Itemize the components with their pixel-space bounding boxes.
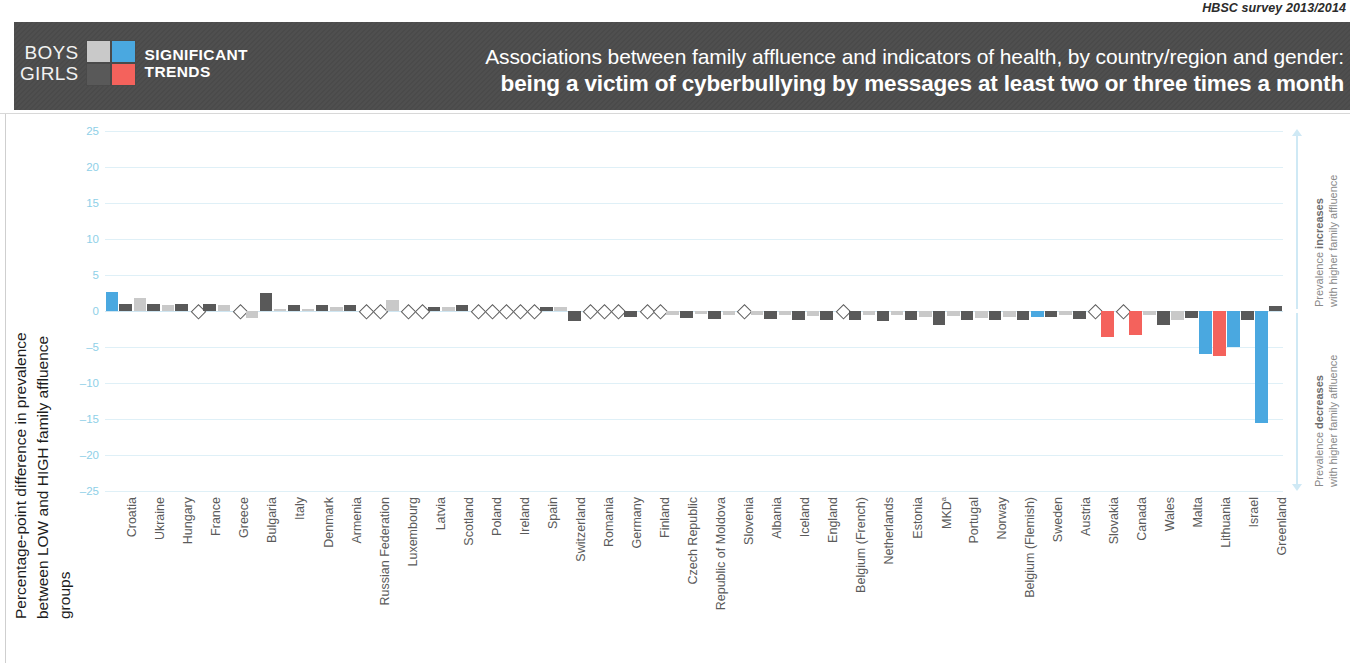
y-tick-label: 25 bbox=[86, 125, 99, 137]
bar-group bbox=[301, 131, 329, 491]
bar-boys-significant bbox=[1199, 311, 1212, 354]
x-label-spain: Spain bbox=[546, 497, 560, 529]
x-label-england: England bbox=[826, 497, 840, 543]
bar-girls bbox=[792, 311, 805, 320]
increase-bold: increases bbox=[1313, 198, 1325, 249]
bar-girls bbox=[119, 304, 132, 311]
x-label-germany: Germany bbox=[630, 497, 644, 548]
bar-boys-significant bbox=[1255, 311, 1268, 423]
zero-marker-boys bbox=[527, 304, 543, 320]
source-note-bar: HBSC survey 2013/2014 bbox=[0, 0, 1350, 22]
bar-group bbox=[554, 131, 582, 491]
bar-group bbox=[1255, 131, 1283, 491]
chart-plot-area: Percentage-point difference in prevalenc… bbox=[0, 113, 1350, 663]
bar-girls bbox=[820, 311, 833, 320]
x-label-malta: Malta bbox=[1191, 497, 1205, 528]
x-label-italy: Italy bbox=[293, 497, 307, 520]
decrease-annotation: Prevalence decreases with higher family … bbox=[1312, 355, 1340, 487]
bar-group bbox=[610, 131, 638, 491]
bar-group bbox=[1115, 131, 1143, 491]
bar-girls-significant bbox=[1101, 311, 1114, 337]
x-label-ukraine: Ukraine bbox=[153, 497, 167, 540]
bar-boys bbox=[218, 305, 231, 311]
y-tick-label: 15 bbox=[86, 197, 99, 209]
x-label-sweden: Sweden bbox=[1051, 497, 1065, 542]
bar-girls bbox=[1241, 311, 1254, 320]
bar-girls bbox=[344, 305, 357, 311]
y-tick-label: –5 bbox=[86, 341, 99, 353]
bar-girls bbox=[1157, 311, 1170, 325]
decrease-prefix: Prevalence bbox=[1313, 429, 1325, 487]
y-tick-label: –25 bbox=[80, 485, 99, 497]
bar-group bbox=[217, 131, 245, 491]
y-tick-label: 5 bbox=[93, 269, 99, 281]
bar-boys bbox=[554, 307, 567, 311]
y-tick-label: 0 bbox=[93, 305, 99, 317]
bar-group bbox=[750, 131, 778, 491]
bar-boys bbox=[779, 311, 792, 315]
bar-boys bbox=[386, 300, 399, 311]
bar-group bbox=[722, 131, 750, 491]
bar-group bbox=[498, 131, 526, 491]
bar-group bbox=[105, 131, 133, 491]
x-label-hungary: Hungary bbox=[181, 497, 195, 544]
increase-prefix: Prevalence bbox=[1313, 249, 1325, 307]
legend: BOYS GIRLS SIGNIFICANT TRENDS bbox=[20, 40, 248, 86]
bar-group bbox=[1003, 131, 1031, 491]
bar-girls bbox=[147, 304, 160, 311]
x-label-russian-federation: Russian Federation bbox=[378, 497, 392, 605]
x-label-latvia: Latvia bbox=[434, 497, 448, 530]
bar-group bbox=[806, 131, 834, 491]
decrease-bold: decreases bbox=[1313, 375, 1325, 429]
x-label-belgium-french-: Belgium (French) bbox=[854, 497, 868, 593]
bar-group bbox=[526, 131, 554, 491]
bar-boys bbox=[246, 311, 259, 318]
x-label-republic-of-moldova: Republic of Moldova bbox=[714, 497, 728, 610]
bar-group bbox=[385, 131, 413, 491]
bar-boys-significant bbox=[1227, 311, 1240, 347]
bar-group bbox=[273, 131, 301, 491]
bar-boys bbox=[919, 311, 932, 317]
x-label-greece: Greece bbox=[237, 497, 251, 538]
bar-group bbox=[946, 131, 974, 491]
swatch-boys-significant bbox=[112, 41, 135, 62]
swatch-girls-nonsignificant bbox=[87, 64, 110, 85]
source-note: HBSC survey 2013/2014 bbox=[1202, 1, 1346, 15]
bar-group bbox=[133, 131, 161, 491]
bar-girls bbox=[568, 311, 581, 321]
bar-boys bbox=[442, 307, 455, 311]
x-label-croatia: Croatia bbox=[125, 497, 139, 537]
bar-boys bbox=[1003, 311, 1016, 317]
bar-boys bbox=[891, 311, 904, 315]
direction-annotations: Prevalence increases with higher family … bbox=[1292, 131, 1350, 491]
bar-boys bbox=[947, 311, 960, 316]
x-label-austria: Austria bbox=[1079, 497, 1093, 536]
bar-boys bbox=[330, 307, 343, 311]
x-label-canada: Canada bbox=[1135, 497, 1149, 541]
swatch-girls-significant bbox=[112, 64, 135, 85]
increase-arrow-line bbox=[1296, 135, 1298, 309]
bar-boys bbox=[751, 311, 764, 315]
bar-girls bbox=[905, 311, 918, 320]
bar-boys bbox=[723, 311, 736, 315]
increase-line2: with higher family affluence bbox=[1326, 175, 1340, 307]
bar-group bbox=[329, 131, 357, 491]
x-label-greenland: Greenland bbox=[1275, 497, 1289, 555]
bar-boys bbox=[1059, 311, 1072, 315]
bar-boys bbox=[975, 311, 988, 318]
bar-boys bbox=[666, 311, 679, 315]
legend-caption-line2: TRENDS bbox=[145, 63, 248, 80]
chart-title: being a victim of cyberbullying by messa… bbox=[354, 70, 1344, 98]
bar-boys bbox=[1171, 311, 1184, 320]
bar-girls bbox=[933, 311, 946, 325]
bar-girls bbox=[260, 293, 273, 311]
increase-arrow-head bbox=[1292, 129, 1302, 136]
bar-group bbox=[694, 131, 722, 491]
x-label-scotland: Scotland bbox=[462, 497, 476, 546]
x-label-switzerland: Switzerland bbox=[574, 497, 588, 562]
x-label-bulgaria: Bulgaria bbox=[265, 497, 279, 543]
x-label-slovakia: Slovakia bbox=[1107, 497, 1121, 544]
x-axis-labels: CroatiaUkraineHungaryFranceGreeceBulgari… bbox=[105, 497, 1283, 663]
bar-girls bbox=[708, 311, 721, 319]
decrease-arrow-line bbox=[1296, 313, 1298, 487]
